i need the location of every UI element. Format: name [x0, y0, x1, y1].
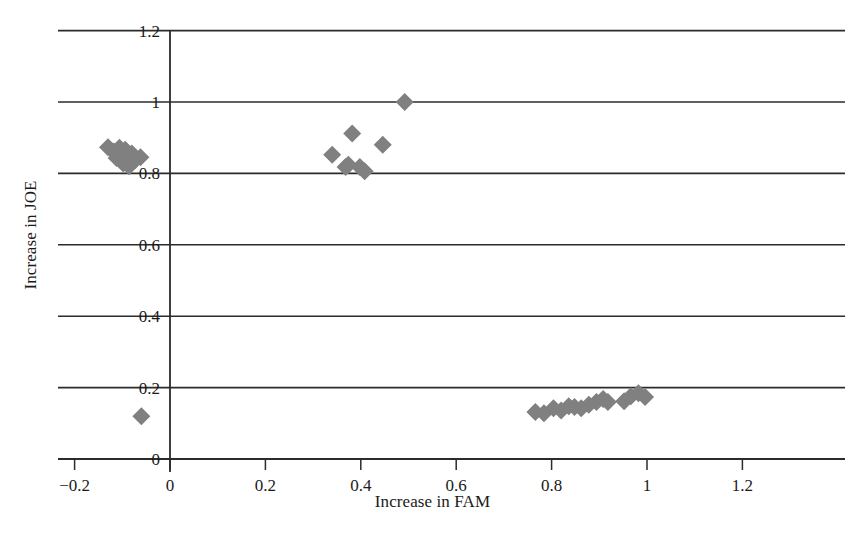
scatter-chart: Increase in JOE −0.200.20.40.60.811.200.… — [0, 0, 865, 541]
y-tick-label: 1.2 — [139, 22, 160, 41]
data-points — [99, 93, 654, 425]
data-point-marker — [396, 93, 414, 111]
data-point-marker — [374, 136, 392, 154]
y-tick-label: 0.2 — [139, 379, 160, 398]
y-tick-label: 1 — [152, 93, 161, 112]
y-tick-label: 0.4 — [139, 307, 161, 326]
plot-area: −0.200.20.40.60.811.200.20.40.60.811.2 — [0, 0, 865, 541]
gridlines — [58, 31, 845, 459]
x-axis-ticks: −0.200.20.40.60.811.2 — [59, 459, 753, 495]
y-tick-label: 0.6 — [139, 236, 160, 255]
y-tick-label: 0 — [152, 450, 161, 469]
y-axis-ticks: 00.20.40.60.811.2 — [139, 22, 161, 469]
y-tick-label: 0.8 — [139, 164, 160, 183]
data-point-marker — [343, 124, 361, 142]
data-point-marker — [323, 146, 341, 164]
x-axis-title: Increase in FAM — [0, 492, 865, 512]
data-point-marker — [132, 407, 150, 425]
axis-lines — [58, 31, 845, 472]
x-axis-title-text: Increase in FAM — [375, 492, 490, 511]
